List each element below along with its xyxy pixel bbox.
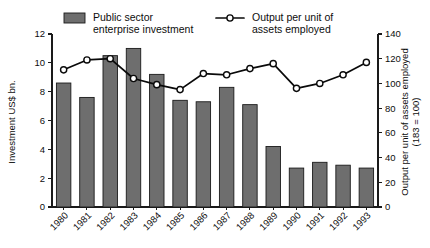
y2-tick-label: 80 [385, 103, 396, 114]
y2-tick-label: 60 [385, 127, 396, 138]
bar-1993 [359, 168, 373, 207]
line-marker-1981 [84, 57, 90, 63]
bar-1991 [313, 162, 327, 207]
y-tick-label: 0 [40, 201, 45, 212]
y-tick-label: 8 [40, 86, 45, 97]
x-tick-label-1986: 1986 [187, 210, 210, 233]
bar-1980 [56, 83, 70, 207]
line-marker-1980 [61, 67, 67, 73]
bar-1986 [196, 102, 210, 207]
chart-canvas: Public sector enterprise investment Outp… [0, 0, 430, 248]
bar-1989 [266, 146, 280, 207]
x-tick-label-1984: 1984 [140, 210, 163, 233]
x-tick-label-1987: 1987 [210, 210, 233, 233]
legend-line-marker [216, 15, 244, 21]
bar-1982 [103, 56, 117, 207]
line-marker-1991 [317, 80, 323, 86]
bar-1984 [150, 74, 164, 207]
y-tick-label: 4 [40, 144, 45, 155]
line-marker-1993 [363, 59, 369, 65]
line-marker-1986 [200, 70, 206, 76]
line-marker-1988 [247, 66, 253, 72]
y-tick-label: 2 [40, 173, 45, 184]
y-tick-label: 10 [34, 57, 45, 68]
line-marker-1990 [293, 85, 299, 91]
line-marker-1985 [177, 87, 183, 93]
legend-line-label-line2: assets employed [252, 23, 331, 35]
bar-1987 [219, 87, 233, 207]
y2-tick-label: 140 [385, 28, 401, 39]
bar-1988 [243, 105, 257, 207]
x-tick-label-1982: 1982 [94, 210, 117, 233]
x-tick-label-1985: 1985 [164, 210, 187, 233]
legend-bar-label-line1: Public sector [93, 11, 154, 23]
x-axis-labels: 1980198119821983198419851986198719881989… [47, 207, 372, 232]
legend-line-label-line1: Output per unit of [252, 11, 333, 23]
line-marker-1983 [130, 75, 136, 81]
line-marker-1984 [154, 82, 160, 88]
x-tick-label-1981: 1981 [71, 210, 94, 233]
legend-bar-swatch [64, 13, 85, 23]
x-tick-label-1992: 1992 [327, 210, 350, 233]
bar-series [56, 48, 373, 207]
y-tick-label: 12 [34, 28, 45, 39]
y2-tick-label: 0 [385, 201, 390, 212]
x-tick-label-1991: 1991 [303, 210, 326, 233]
line-marker-1987 [224, 72, 230, 78]
legend-bar-label-line2: enterprise investment [93, 23, 193, 35]
bar-1981 [80, 97, 94, 207]
bar-1983 [126, 48, 140, 207]
x-tick-label-1988: 1988 [234, 210, 257, 233]
y2-tick-label: 40 [385, 152, 396, 163]
bar-1992 [336, 165, 350, 207]
y2-tick-label: 20 [385, 177, 396, 188]
line-marker-1989 [270, 61, 276, 67]
y-axis-title: Investment US$ bn. [6, 80, 17, 163]
x-tick-label-1990: 1990 [280, 210, 303, 233]
x-tick-label-1980: 1980 [47, 210, 70, 233]
y-tick-label: 6 [40, 115, 45, 126]
x-tick-label-1993: 1993 [350, 210, 373, 233]
line-marker-1982 [107, 56, 113, 62]
x-tick-label-1983: 1983 [117, 210, 140, 233]
x-tick-label-1989: 1989 [257, 210, 280, 233]
bar-1985 [173, 100, 187, 207]
y2-axis-title-note: (183 = 100) [410, 98, 421, 147]
bar-1990 [289, 168, 303, 207]
chart-container: Public sector enterprise investment Outp… [0, 0, 430, 248]
y2-axis-title: Output per unit of assets employed [399, 48, 410, 195]
line-marker-1992 [340, 72, 346, 78]
chart-legend: Public sector enterprise investment Outp… [64, 11, 333, 35]
